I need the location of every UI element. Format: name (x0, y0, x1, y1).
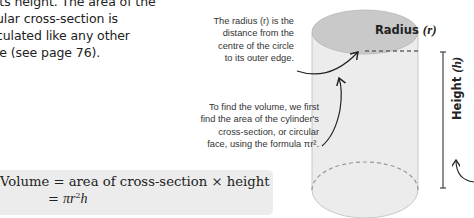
annotation-line: face, using the formula πr². (176, 138, 319, 150)
volume-annotation: To find the volume, we first find the ar… (176, 101, 319, 150)
annotation-line: To find the volume, we first (176, 101, 319, 113)
annotation-line: find the area of the cylinder's (176, 113, 319, 125)
formula-line-1: Volume = area of cross-section × height (0, 174, 269, 189)
formula-pi-r: πr (63, 191, 75, 206)
radius-label: Radius (r) (375, 22, 437, 38)
formula-h: h (81, 191, 88, 206)
annotation-line: to its outer edge. (196, 52, 294, 64)
annotation-line: centre of the circle (196, 40, 294, 52)
formula-line-2: = πr2h (48, 191, 88, 207)
height-annotation-arrow (456, 160, 474, 182)
height-label: Height (h) (449, 57, 465, 120)
annotation-line: distance from the (196, 27, 294, 39)
height-label-text: Height (450, 77, 464, 120)
annotation-line: The radius (r) is the (196, 15, 294, 27)
radius-annotation: The radius (r) is the distance from the … (196, 15, 294, 64)
formula-equals: = (48, 191, 63, 206)
annotation-line: cross-section, or circular (176, 126, 319, 138)
radius-symbol: (r) (423, 22, 437, 37)
cylinder-body (312, 32, 418, 218)
formula-box: Volume = area of cross-section × height … (0, 170, 273, 215)
radius-label-text: Radius (375, 23, 419, 37)
height-symbol: (h) (449, 57, 464, 73)
